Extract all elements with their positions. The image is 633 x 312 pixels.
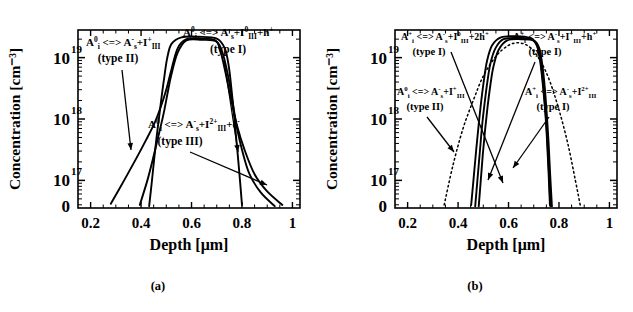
svg-text:17: 17 [388,165,400,177]
svg-text:0.8: 0.8 [550,215,569,231]
svg-text:1: 1 [606,215,614,231]
svg-text:10: 10 [53,171,70,190]
svg-text:A0i <=> A-s+I+III: A0i <=> A-s+I+III [86,35,160,52]
svg-text:0: 0 [62,197,71,216]
svg-text:19: 19 [388,43,400,55]
figure-container: 0.20.40.60.811019101810170Depth [μm]Conc… [0,0,633,312]
svg-text:10: 10 [370,171,387,190]
svg-text:(type I): (type I) [413,46,446,58]
svg-text:10: 10 [53,110,70,129]
svg-text:(type II): (type II) [406,101,444,113]
svg-text:A0i <=> A-s+I0III+h+: A0i <=> A-s+I0III+h+ [183,25,274,42]
panel-a-caption: (a) [0,279,316,294]
svg-text:10: 10 [370,110,387,129]
panel-b-caption: (b) [317,279,633,294]
svg-text:Depth [μm]: Depth [μm] [150,236,229,254]
svg-text:A+i <=> A-s+I0III+2h+: A+i <=> A-s+I0III+2h+ [401,30,489,44]
svg-text:A+i <=> A-s+I+III+h+: A+i <=> A-s+I+III+h+ [513,30,596,44]
svg-text:(type I): (type I) [537,101,570,113]
plot-a: 0.20.40.60.811019101810170Depth [μm]Conc… [0,0,316,300]
svg-text:(type II): (type II) [98,52,139,65]
panel-b: 0.20.40.60.811019101810170Depth [μm]Conc… [317,0,633,300]
svg-text:(type I): (type I) [210,43,246,56]
svg-text:17: 17 [71,165,83,177]
svg-text:(type I): (type I) [529,46,562,58]
panel-a: 0.20.40.60.811019101810170Depth [μm]Conc… [0,0,316,300]
svg-text:Depth [μm]: Depth [μm] [467,236,546,254]
svg-text:A0i <=> A-s+I2+III+e-: A0i <=> A-s+I2+III+e- [148,117,240,134]
svg-text:0.4: 0.4 [449,215,468,231]
svg-text:18: 18 [71,104,83,116]
svg-text:10: 10 [53,49,70,68]
svg-text:19: 19 [71,43,83,55]
svg-text:18: 18 [388,104,400,116]
svg-text:10: 10 [370,49,387,68]
svg-text:A+i <=> A-s+I2+III: A+i <=> A-s+I2+III [525,85,597,99]
svg-text:(type III): (type III) [157,135,202,148]
plot-b: 0.20.40.60.811019101810170Depth [μm]Conc… [317,0,633,300]
svg-text:0.2: 0.2 [81,215,100,231]
svg-text:0: 0 [379,197,388,216]
svg-text:0.8: 0.8 [233,215,252,231]
svg-text:0.4: 0.4 [132,215,151,231]
svg-text:0.6: 0.6 [182,215,201,231]
svg-text:0.2: 0.2 [398,215,417,231]
svg-text:Concentration [cm⁻³]: Concentration [cm⁻³] [6,48,23,190]
svg-text:1: 1 [289,215,297,231]
svg-text:A0i <=> A-s+I+III: A0i <=> A-s+I+III [397,85,465,99]
svg-text:Concentration [cm⁻³]: Concentration [cm⁻³] [323,48,340,190]
svg-text:0.6: 0.6 [499,215,518,231]
